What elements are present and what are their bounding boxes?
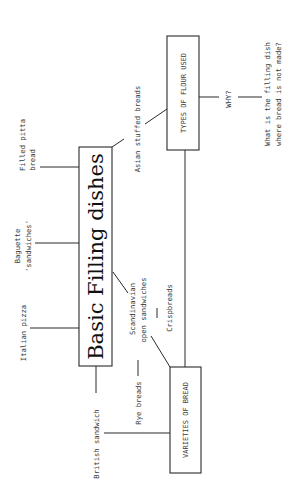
central-title: Basic Filling dishes [84, 153, 108, 360]
connector-scandinavian-main [113, 272, 128, 293]
label-italian-pizza: Italian pizza [19, 305, 28, 361]
label-question-2: where bread is not made? [274, 42, 283, 146]
connector-scandinavian-varieties [151, 336, 170, 367]
flour-node: TYPES OF FLOUR USED [167, 36, 199, 150]
varieties-label: VARIETIES OF BREAD [182, 382, 190, 458]
label-filled-pitta-1: Filled pitta [18, 119, 27, 171]
central-node: Basic Filling dishes [79, 147, 112, 366]
label-crispbreads: Crispbreads [165, 284, 174, 332]
label-asian-stuffed: Asian stuffed breads [133, 86, 142, 173]
label-rye-breads: Rye breads [134, 381, 143, 424]
label-filled-pitta-2: bread [28, 149, 37, 171]
connector-asian-main [112, 139, 124, 147]
label-scandinavian-2: open sandwiches [139, 278, 148, 343]
branch-labels: Filled pitta bread Baguette 'sandwiches'… [13, 42, 283, 479]
connector-asian-flour [145, 109, 167, 124]
varieties-node: VARIETIES OF BREAD [170, 367, 201, 473]
label-question-1: What is the filling dish [263, 42, 272, 146]
label-why: WHY? [224, 90, 233, 107]
mind-map-diagram: Basic Filling dishes TYPES OF FLOUR USED… [0, 0, 300, 502]
label-british-sandwich: British sandwich [92, 409, 101, 478]
label-scandinavian-1: Scandinavian [128, 283, 137, 335]
label-baguette-1: Baguette [13, 229, 22, 264]
connectors [30, 97, 262, 433]
flour-label: TYPES OF FLOUR USED [180, 53, 188, 133]
label-baguette-2: 'sandwiches' [24, 220, 33, 272]
